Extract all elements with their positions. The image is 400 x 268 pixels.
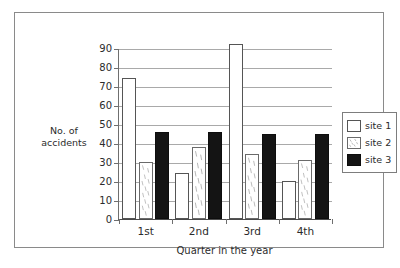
speckled-swatch-icon bbox=[347, 137, 361, 149]
black-swatch-icon bbox=[347, 154, 361, 166]
bar-site-3-2nd bbox=[208, 132, 222, 219]
legend-item-site-2[interactable]: site 2 bbox=[347, 134, 391, 151]
bar-site-3-3rd bbox=[262, 134, 276, 220]
y-axis-tick-label: 90 bbox=[99, 44, 112, 54]
plot-area: 0102030405060708090 bbox=[118, 49, 331, 220]
legend-label-site-1: site 1 bbox=[365, 120, 391, 131]
y-axis-tick-label: 20 bbox=[99, 177, 112, 187]
y-axis-title-line-2: accidents bbox=[33, 137, 95, 149]
x-axis-tick-label: 3rd bbox=[243, 226, 260, 237]
x-axis-tick-label: 2nd bbox=[189, 226, 209, 237]
bar-site-1-1st bbox=[122, 78, 136, 219]
y-axis-tick-label: 50 bbox=[99, 120, 112, 130]
bar-site-2-1st bbox=[139, 162, 153, 219]
bar-site-3-4th bbox=[315, 134, 329, 220]
y-axis-title: No. of accidents bbox=[33, 125, 95, 149]
white-swatch-icon bbox=[347, 120, 361, 132]
legend-label-site-2: site 2 bbox=[365, 137, 391, 148]
x-axis-title: Quarter in the year bbox=[118, 245, 331, 257]
y-axis-tick-label: 60 bbox=[99, 101, 112, 111]
x-axis-tick bbox=[279, 219, 280, 224]
bar-site-2-2nd bbox=[192, 147, 206, 219]
bar-site-1-2nd bbox=[175, 173, 189, 219]
y-axis-tick-label: 10 bbox=[99, 196, 112, 206]
legend-label-site-3: site 3 bbox=[365, 154, 391, 165]
x-axis-tick-label: 4th bbox=[297, 226, 314, 237]
y-axis-tick-label: 30 bbox=[99, 158, 112, 168]
chart-legend: site 1 site 2 site 3 bbox=[342, 112, 397, 173]
y-axis-tick-label: 70 bbox=[99, 82, 112, 92]
x-axis-tick bbox=[172, 219, 173, 224]
y-axis-title-line-1: No. of bbox=[33, 125, 95, 137]
y-axis-tick-label: 40 bbox=[99, 139, 112, 149]
x-axis-tick bbox=[332, 219, 333, 224]
bar-site-1-3rd bbox=[229, 44, 243, 219]
y-axis-tick-label: 80 bbox=[99, 63, 112, 73]
bar-site-1-4th bbox=[282, 181, 296, 219]
bar-group-container bbox=[119, 48, 332, 219]
x-axis-tick bbox=[226, 219, 227, 224]
y-axis-tick-label: 0 bbox=[106, 215, 112, 225]
x-axis-tick bbox=[119, 219, 120, 224]
bar-site-3-1st bbox=[155, 132, 169, 219]
legend-item-site-1[interactable]: site 1 bbox=[347, 117, 391, 134]
bar-site-2-3rd bbox=[245, 154, 259, 219]
bar-site-2-4th bbox=[298, 160, 312, 219]
figure-frame: No. of accidents 0102030405060708090 bbox=[14, 12, 384, 248]
legend-item-site-3[interactable]: site 3 bbox=[347, 151, 391, 168]
x-axis-tick-label: 1st bbox=[137, 226, 153, 237]
